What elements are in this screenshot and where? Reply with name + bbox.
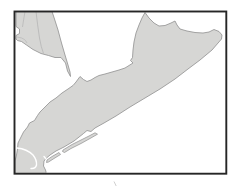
map-figure xyxy=(0,0,237,189)
map-canvas xyxy=(0,0,237,189)
stray-tick-mark xyxy=(114,182,116,187)
